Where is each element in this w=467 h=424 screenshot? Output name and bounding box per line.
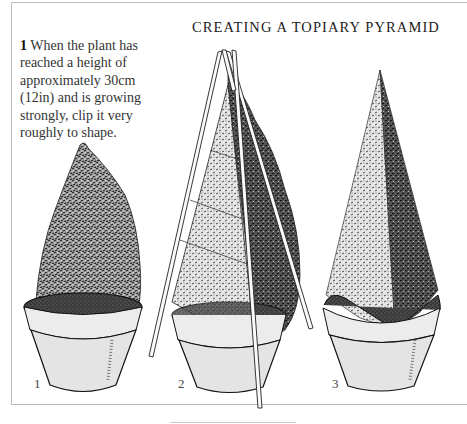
figure-3-label: 3 [332, 376, 339, 392]
figure-2-label: 2 [178, 376, 185, 392]
figure-1-label: 1 [34, 376, 41, 392]
figure-3-pot [323, 295, 440, 391]
topiary-illustration [0, 0, 467, 424]
figure-3-plant [326, 70, 438, 330]
figure-1-pot [24, 293, 142, 392]
figure-2-pot [172, 302, 286, 393]
figure-1-plant [36, 143, 141, 312]
